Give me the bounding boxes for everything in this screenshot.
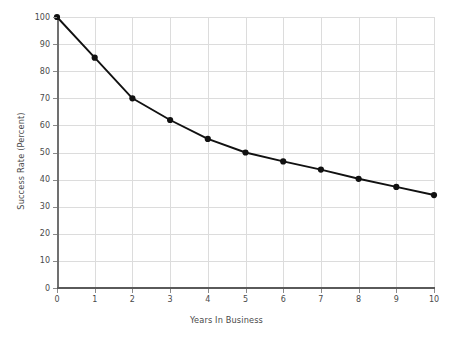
x-axis-title: Years In Business [0,315,453,325]
data-point [242,149,248,155]
y-axis-tick-label: 80 [24,67,50,76]
y-axis-tick-label: 60 [24,121,50,130]
data-point [280,158,286,164]
y-axis-tick-label: 10 [24,256,50,265]
x-axis-tick-label: 6 [270,295,296,304]
x-axis-tick [396,289,397,293]
x-axis-tick [132,289,133,293]
data-point [393,184,399,190]
x-axis-tick-label: 0 [44,295,70,304]
x-axis-tick-label: 8 [346,295,372,304]
y-axis-tick-label: 0 [24,284,50,293]
data-point [92,55,98,61]
y-axis-tick-label: 100 [24,13,50,22]
y-axis-tick [53,98,57,99]
x-axis-tick-label: 4 [195,295,221,304]
x-axis-tick-label: 10 [421,295,447,304]
data-point [167,117,173,123]
y-axis-tick [53,44,57,45]
x-axis-tick-label: 2 [119,295,145,304]
y-axis-tick-label: 40 [24,175,50,184]
x-axis-tick [208,289,209,293]
x-axis-tick-label: 7 [308,295,334,304]
y-axis-tick-label: 20 [24,229,50,238]
x-axis-tick [283,289,284,293]
data-point [129,95,135,101]
gridline-vertical [434,17,435,288]
y-axis-tick [53,180,57,181]
y-axis-tick-label: 30 [24,202,50,211]
data-point [318,166,324,172]
y-axis-tick [53,71,57,72]
x-axis-tick [246,289,247,293]
series-line [57,17,434,195]
y-axis-tick [53,234,57,235]
y-axis-tick [53,125,57,126]
x-axis-tick [434,289,435,293]
y-axis-tick [53,17,57,18]
series-markers [54,14,437,198]
data-point [205,136,211,142]
x-axis-tick-label: 1 [82,295,108,304]
y-axis-tick-label: 70 [24,94,50,103]
x-axis-tick [170,289,171,293]
x-axis-tick-label: 9 [383,295,409,304]
y-axis-tick [53,261,57,262]
y-axis-tick-label: 90 [24,40,50,49]
y-axis-tick [53,207,57,208]
x-axis-tick [95,289,96,293]
x-axis-tick [359,289,360,293]
x-axis-tick-label: 5 [233,295,259,304]
chart-figure: Success Rate (Percent) Years In Business… [0,0,453,340]
y-axis-tick [53,153,57,154]
y-axis-tick-label: 50 [24,148,50,157]
x-axis-tick [57,289,58,293]
data-point [431,192,437,198]
data-series-layer [57,17,434,288]
data-point [356,176,362,182]
x-axis-tick-label: 3 [157,295,183,304]
x-axis-tick [321,289,322,293]
